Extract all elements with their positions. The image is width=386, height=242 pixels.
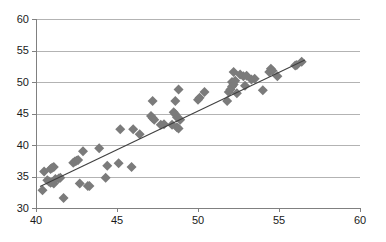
data-point — [94, 143, 104, 153]
data-point — [115, 124, 125, 134]
plot-svg: 30354045505560 4045505560 — [0, 0, 386, 242]
y-tick-label-55: 55 — [17, 44, 29, 56]
data-point — [59, 193, 69, 203]
y-tick-label-50: 50 — [17, 76, 29, 88]
data-point — [84, 181, 94, 191]
x-tick-label-55: 55 — [273, 214, 285, 226]
data-point — [148, 96, 158, 106]
y-tick-label-30: 30 — [17, 202, 29, 214]
data-point — [174, 85, 184, 95]
data-point — [78, 146, 88, 156]
y-tick-label-40: 40 — [17, 139, 29, 151]
x-tick-label-50: 50 — [192, 214, 204, 226]
x-tick-label-60: 60 — [354, 214, 366, 226]
x-tick-label-45: 45 — [111, 214, 123, 226]
x-axis-tick-labels: 4045505560 — [30, 214, 366, 226]
data-point — [101, 173, 111, 183]
data-point — [258, 85, 268, 95]
y-axis-tick-labels: 30354045505560 — [17, 13, 29, 214]
gridlines — [36, 20, 360, 209]
data-point — [37, 185, 47, 195]
data-point — [127, 162, 137, 172]
data-point — [170, 96, 180, 106]
y-tick-label-60: 60 — [17, 13, 29, 25]
axes — [37, 19, 361, 209]
y-tick-label-35: 35 — [17, 170, 29, 182]
y-tick-label-45: 45 — [17, 107, 29, 119]
trend-line-segment — [40, 60, 305, 187]
x-tick-label-40: 40 — [30, 214, 42, 226]
data-point — [102, 161, 112, 171]
data-point — [114, 158, 124, 168]
data-point — [75, 178, 85, 188]
scatter-chart: 30354045505560 4045505560 — [0, 0, 386, 242]
trend-line — [40, 60, 305, 187]
